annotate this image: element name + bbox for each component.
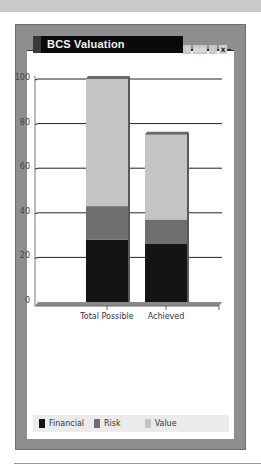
y-tick-label: 0 <box>14 296 30 305</box>
bar-segment-risk <box>86 206 128 239</box>
y-tick-label: 80 <box>14 118 30 127</box>
chart-legend: FinancialRiskValue <box>33 415 229 432</box>
bar-segment-risk <box>145 219 187 244</box>
bar-segment-value <box>145 135 187 220</box>
y-tick-label: 100 <box>14 73 30 82</box>
legend-item-value: Value <box>145 419 177 428</box>
bar-side <box>128 77 130 302</box>
legend-swatch <box>39 419 45 428</box>
stacked-bar-chart <box>0 0 261 468</box>
legend-item-financial: Financial <box>39 419 84 428</box>
bar-top <box>86 76 130 79</box>
bar-segment-value <box>86 79 128 206</box>
y-tick-label: 60 <box>14 162 30 171</box>
bar-top <box>145 132 189 135</box>
x-tick-label: Achieved <box>131 312 201 321</box>
legend-swatch <box>145 419 151 428</box>
y-tick-label: 20 <box>14 251 30 260</box>
chart-floor <box>35 302 222 306</box>
y-tick-label: 40 <box>14 207 30 216</box>
legend-label: Risk <box>104 419 121 428</box>
legend-label: Financial <box>49 419 84 428</box>
legend-label: Value <box>155 419 177 428</box>
legend-item-risk: Risk <box>94 419 121 428</box>
legend-swatch <box>94 419 100 428</box>
bottom-divider <box>14 463 261 464</box>
bar-segment-financial <box>86 240 128 302</box>
bar-segment-financial <box>145 244 187 302</box>
bar-side <box>187 133 189 302</box>
